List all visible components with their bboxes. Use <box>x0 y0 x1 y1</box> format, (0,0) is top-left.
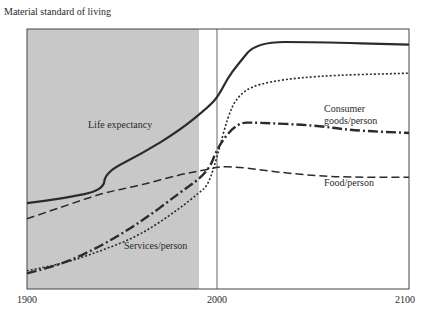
label-consumer-goods-line2: goods/person <box>324 115 377 127</box>
label-life-expectancy: Life expectancy <box>88 119 152 131</box>
label-consumer-goods-line1: Consumer <box>324 103 365 115</box>
label-food-per-person: Food/person <box>324 177 374 189</box>
x-tick-2000: 2000 <box>207 294 227 305</box>
chart-canvas <box>0 0 436 320</box>
x-tick-2100: 2100 <box>395 294 415 305</box>
y-axis-label: Material standard of living <box>4 6 111 17</box>
label-services-per-person: Services/person <box>124 240 187 252</box>
x-tick-1900: 1900 <box>17 294 37 305</box>
